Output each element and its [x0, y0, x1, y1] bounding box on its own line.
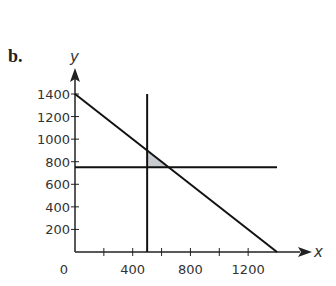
y-tick-label: 400	[45, 200, 70, 215]
y-tick-label: 200	[45, 222, 70, 237]
y-tick-label: 1400	[37, 87, 70, 102]
y-tick-label: 1200	[37, 110, 70, 125]
x-tick-label: 1200	[232, 262, 265, 277]
x-tick-label: 400	[120, 262, 145, 277]
y-tick-label: 600	[45, 177, 70, 192]
chart: 04008001200200400600800100012001400xy	[0, 0, 336, 286]
y-tick-label: 800	[45, 155, 70, 170]
x-axis-label: x	[313, 243, 323, 261]
y-tick-label: 1000	[37, 132, 70, 147]
constraint-line	[75, 94, 277, 252]
x-axis-arrow-icon	[298, 247, 312, 257]
x-tick-label: 0	[60, 262, 68, 277]
y-axis-label: y	[69, 48, 80, 66]
x-tick-label: 800	[178, 262, 203, 277]
